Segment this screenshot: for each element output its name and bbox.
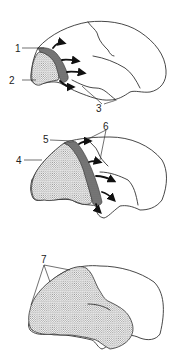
leader-line [44, 265, 50, 282]
arrow-icon [79, 141, 90, 144]
leader-line [104, 100, 116, 104]
dotted-region-7 [29, 267, 133, 349]
arrow-icon [96, 176, 114, 181]
label-5: 5 [43, 134, 49, 145]
label-1: 1 [15, 43, 21, 54]
lateral-sulcus [93, 56, 140, 88]
leader-line [44, 265, 70, 270]
arrow-icon [67, 72, 84, 73]
arrow-icon [53, 43, 64, 48]
label-4: 4 [16, 155, 22, 166]
central-sulcus [88, 22, 114, 56]
brain-diagram: 1 2 3 5 6 4 7 [0, 0, 177, 357]
leader-line [50, 140, 74, 141]
label-6: 6 [103, 121, 109, 132]
panel-top: 1 2 3 [9, 21, 166, 114]
panel-bottom: 7 [29, 254, 164, 349]
panel-middle: 5 6 4 [16, 121, 167, 218]
label-3: 3 [96, 103, 102, 114]
label-2: 2 [9, 75, 15, 86]
arrow-icon [89, 161, 100, 162]
arrow-icon [102, 192, 114, 200]
leader-line [100, 130, 106, 160]
label-7: 7 [41, 254, 47, 265]
arrow-icon [62, 60, 78, 61]
